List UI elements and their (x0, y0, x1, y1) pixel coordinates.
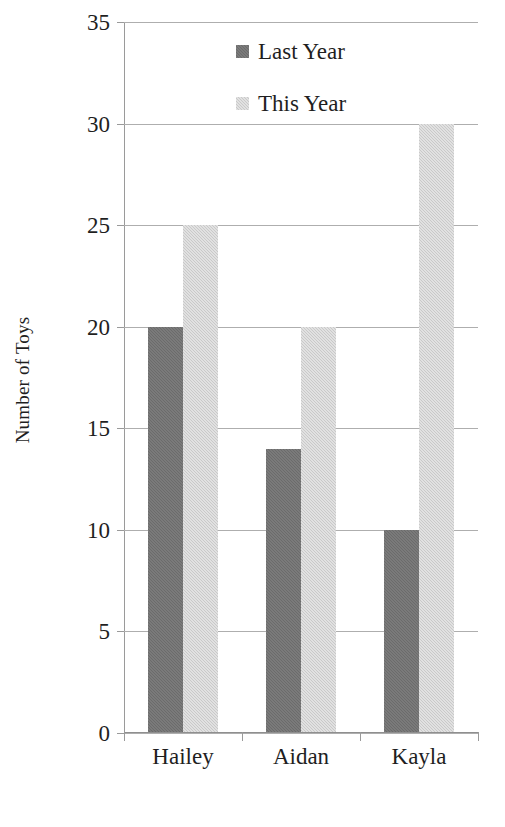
bar-chart: Number of Toys 05101520253035 HaileyAida… (0, 0, 505, 827)
y-tick-mark (117, 124, 124, 125)
x-axis-line (124, 732, 478, 733)
y-axis-title: Number of Toys (0, 0, 46, 760)
bar-hailey-last-year (148, 327, 183, 733)
y-tick-mark (117, 631, 124, 632)
x-tick-mark (360, 732, 361, 741)
y-tick-mark (117, 428, 124, 429)
bar-kayla-this-year (419, 124, 454, 733)
y-tick-label: 25 (87, 214, 110, 237)
y-tick-label: 35 (87, 11, 110, 34)
y-axis-tick-labels: 05101520253035 (46, 0, 118, 760)
y-tick-label: 5 (99, 620, 111, 643)
x-tick-mark (124, 732, 125, 741)
y-tick-mark (117, 733, 124, 734)
y-tick-label: 20 (87, 315, 110, 338)
bar-aidan-last-year (266, 449, 301, 733)
y-tick-label: 10 (87, 518, 110, 541)
bar-aidan-this-year (301, 327, 336, 733)
legend-item-this-year[interactable]: This Year (236, 90, 346, 116)
y-axis-title-text: Number of Toys (12, 317, 34, 444)
chart-legend: Last YearThis Year (236, 38, 346, 142)
y-tick-mark (117, 327, 124, 328)
legend-label: Last Year (258, 40, 345, 63)
legend-swatch-icon (236, 45, 249, 58)
y-tick-label: 30 (87, 112, 110, 135)
x-tick-mark (478, 732, 479, 741)
gridline (124, 733, 478, 734)
x-axis-category-labels: HaileyAidanKayla (124, 745, 478, 785)
legend-label: This Year (258, 92, 346, 115)
x-tick-label: Kayla (392, 745, 447, 768)
y-tick-label: 15 (87, 417, 110, 440)
legend-item-last-year[interactable]: Last Year (236, 38, 346, 64)
x-tick-label: Hailey (152, 745, 213, 768)
legend-swatch-icon (236, 97, 249, 110)
bar-hailey-this-year (183, 225, 218, 733)
y-tick-label: 0 (99, 722, 111, 745)
y-tick-mark (117, 22, 124, 23)
y-tick-mark (117, 530, 124, 531)
x-tick-label: Aidan (273, 745, 329, 768)
bar-kayla-last-year (384, 530, 419, 733)
x-tick-mark (242, 732, 243, 741)
y-tick-mark (117, 225, 124, 226)
